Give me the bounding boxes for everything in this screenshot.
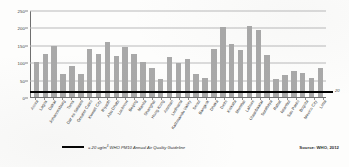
bar <box>229 44 235 97</box>
bar <box>158 79 164 97</box>
bar-slot <box>85 11 94 97</box>
x-axis-tick-label: Lagos <box>38 99 48 111</box>
x-axis-tick-label: Lima <box>318 99 327 109</box>
bar <box>60 74 66 97</box>
bar-slot <box>254 11 263 97</box>
bar-slot <box>174 11 183 97</box>
bar-slot <box>94 11 103 97</box>
bar <box>87 49 93 97</box>
y-axis-tick-mark <box>25 63 28 64</box>
bar <box>247 26 253 97</box>
legend-label: = 20 ug/m3 WHO PM10 Annual Air Quality G… <box>88 144 185 150</box>
bar <box>78 74 84 97</box>
y-axis-tick-label: 100 <box>17 61 25 66</box>
bar-slot <box>236 11 245 97</box>
legend-line-swatch <box>62 146 84 148</box>
plot-area: 20 <box>30 11 326 98</box>
bar-slot <box>103 11 112 97</box>
legend: = 20 ug/m3 WHO PM10 Annual Air Quality G… <box>62 144 185 150</box>
y-axis-tick-label: 250 <box>17 9 25 14</box>
guideline-value-label: 20 <box>335 88 340 93</box>
y-axis-tick-mark <box>25 80 28 81</box>
bar-slot <box>263 11 272 97</box>
bar-slot <box>112 11 121 97</box>
bar-slot <box>32 11 41 97</box>
y-axis-tick-mark <box>25 45 28 46</box>
bar-slot <box>41 11 50 97</box>
bar-slot <box>210 11 219 97</box>
bar-slot <box>121 11 130 97</box>
bar-series <box>31 11 326 97</box>
y-axis-tick-mark <box>25 98 28 99</box>
bar <box>122 47 128 97</box>
bar <box>256 30 262 97</box>
bar-slot <box>316 11 325 97</box>
bar-slot <box>307 11 316 97</box>
bar <box>300 73 306 97</box>
bar-slot <box>147 11 156 97</box>
bar <box>318 68 324 97</box>
bar-slot <box>281 11 290 97</box>
bar-slot <box>130 11 139 97</box>
bar <box>202 78 208 97</box>
bar <box>211 49 217 97</box>
bar-slot <box>227 11 236 97</box>
bar <box>220 27 226 97</box>
source-note: Source: WHO, 2012 <box>299 145 339 150</box>
bar-slot <box>50 11 59 97</box>
bar <box>291 71 297 97</box>
chart-container: 050100150200250 20 AccraLagosDakarJohann… <box>0 0 349 167</box>
bar-slot <box>68 11 77 97</box>
y-axis-tick-mark <box>25 11 28 12</box>
who-guideline-line <box>30 91 333 93</box>
bar <box>282 75 288 97</box>
bar-slot <box>272 11 281 97</box>
bar <box>238 50 244 97</box>
bar-slot <box>245 11 254 97</box>
bar-slot <box>201 11 210 97</box>
bar-slot <box>218 11 227 97</box>
bar <box>309 78 315 97</box>
y-axis: 050100150200250 <box>0 6 28 101</box>
bar-slot <box>192 11 201 97</box>
bar-slot <box>289 11 298 97</box>
y-axis-tick-label: 200 <box>17 26 25 31</box>
bar-slot <box>59 11 68 97</box>
bar-slot <box>139 11 148 97</box>
bar-slot <box>156 11 165 97</box>
bar <box>105 42 111 97</box>
bar <box>273 79 279 97</box>
y-axis-tick-label: 150 <box>17 43 25 48</box>
bar-slot <box>298 11 307 97</box>
bar-slot <box>76 11 85 97</box>
bar <box>51 46 57 97</box>
x-axis-labels: AccraLagosDakarJohannesburgTunisDar es S… <box>30 99 326 145</box>
bar-slot <box>183 11 192 97</box>
x-axis-line <box>30 97 326 98</box>
bar <box>193 74 199 97</box>
y-axis-tick-mark <box>25 28 28 29</box>
bar-slot <box>165 11 174 97</box>
